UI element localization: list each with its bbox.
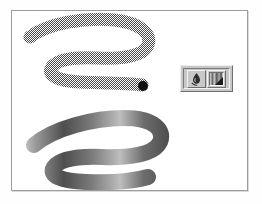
blend-tool-button[interactable] (187, 70, 206, 88)
floating-tool-palette[interactable] (180, 65, 233, 92)
gradient-swatch-button[interactable] (207, 70, 226, 88)
tool-palette-inner (183, 68, 230, 89)
artwork-layer (12, 11, 247, 190)
blend-smudge-icon (190, 72, 203, 86)
gradient-swatch-icon (209, 72, 224, 86)
scanned-figure-page (0, 0, 262, 204)
stroke-artwork-svg (12, 11, 247, 190)
drawing-canvas[interactable] (11, 10, 248, 191)
dropdown-arrow-icon[interactable] (215, 77, 223, 85)
gradient-stroke (12, 11, 247, 190)
